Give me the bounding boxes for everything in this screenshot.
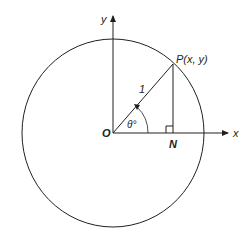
- x-axis-label: x: [232, 127, 239, 139]
- origin-label: O: [102, 127, 111, 139]
- angle-label: θ°: [127, 119, 136, 130]
- radius-line-op: [113, 64, 173, 133]
- radius-label: 1: [139, 83, 145, 95]
- foot-label: N: [169, 138, 178, 150]
- point-label: P(x, y): [176, 53, 208, 65]
- unit-circle-diagram: y x O P(x, y) N 1 θ°: [0, 0, 252, 240]
- right-angle-marker: [166, 126, 173, 133]
- y-axis-label: y: [100, 13, 108, 25]
- angle-arc: [137, 107, 148, 133]
